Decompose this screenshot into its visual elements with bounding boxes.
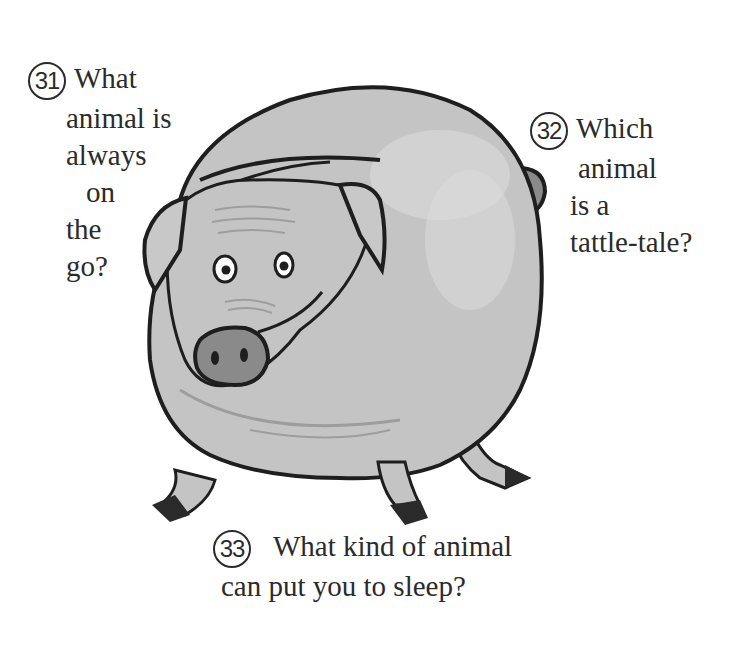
question-text-line: can put you to sleep? [213, 568, 512, 605]
pig-leg-front-left [152, 470, 215, 522]
question-number-badge: 31 [28, 62, 66, 100]
question-text-line: the [28, 211, 172, 248]
question-31: 31What animal is always on the go? [28, 60, 172, 285]
question-text-line: on [28, 174, 172, 211]
question-text-line: always [28, 137, 172, 174]
question-text-line: tattle-tale? [530, 224, 692, 261]
question-text-line: animal is [28, 100, 172, 137]
question-text-line: is a [530, 187, 692, 224]
question-32: 32Which animal is a tattle-tale? [530, 110, 692, 261]
question-33: 33What kind of animal can put you to sle… [213, 528, 512, 605]
question-number-badge: 32 [530, 112, 568, 150]
question-text-line: animal [530, 150, 692, 187]
question-text-line: What kind of animal [273, 530, 512, 562]
question-number-badge: 33 [213, 530, 251, 568]
question-text-line: Which [576, 112, 653, 144]
question-text-line: go? [28, 248, 172, 285]
question-text-line: What [74, 62, 137, 94]
pig-snout [195, 328, 268, 386]
